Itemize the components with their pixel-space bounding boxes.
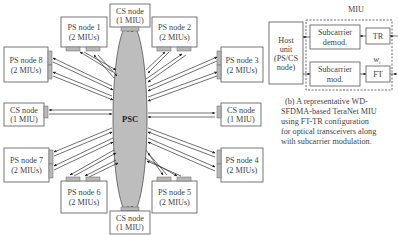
ps-node-2: PS node 2 (2 MIUs): [152, 17, 197, 51]
node-sublabel: (1 MIU): [116, 223, 144, 232]
node-sublabel: (2 MIUs): [11, 166, 42, 175]
cs-node-right: CS node (1 MIU): [217, 103, 261, 126]
cs-node-top: CS node (1 MIU): [110, 4, 150, 31]
caption-line: with subcarrier modulation.: [281, 137, 372, 146]
ps-node-7: PS node 7 (2 MIUs): [4, 148, 53, 182]
node-label: CS node: [227, 106, 255, 115]
host-label: unit: [280, 45, 293, 54]
host-label: node): [277, 63, 296, 72]
node-sublabel: (2 MIUs): [227, 166, 258, 175]
mod-label: mod.: [327, 75, 344, 84]
node-label: PS node 8: [9, 56, 42, 65]
tr-label: TR: [373, 32, 384, 41]
host-label: (PS/CS: [274, 54, 299, 63]
node-sublabel: (1 MIU): [116, 16, 144, 25]
cs-node-left: CS node (1 MIU): [4, 103, 48, 126]
teranet-diagram: PSC: [0, 0, 398, 235]
psc-hub: PSC: [113, 22, 147, 216]
node-label: CS node: [10, 106, 38, 115]
mod-label: Subcarrier: [318, 65, 352, 74]
host-label: Host: [278, 36, 294, 45]
ps-node-4: PS node 4 (2 MIUs): [217, 148, 263, 182]
figure-caption: (b) A representative WD- SFDMA-based Ter…: [281, 97, 377, 146]
miu-title: MIU: [348, 5, 364, 14]
node-sublabel: (2 MIUs): [159, 198, 190, 207]
demod-label: demod.: [323, 38, 347, 47]
psc-label: PSC: [122, 114, 138, 124]
wavelength-label: wi: [374, 55, 381, 65]
miu-detail: MIU Host unit (PS/CS node) Subcarrier de…: [269, 5, 398, 90]
node-sublabel: (2 MIUs): [11, 66, 42, 75]
node-sublabel: (2 MIUs): [159, 33, 190, 42]
cs-node-bottom: CS node (1 MIU): [110, 207, 150, 234]
node-label: PS node 1: [67, 23, 100, 32]
node-label: PS node 3: [225, 56, 258, 65]
node-sublabel: (1 MIU): [227, 115, 255, 124]
node-label: CS node: [116, 214, 144, 223]
ps-node-8: PS node 8 (2 MIUs): [4, 47, 52, 82]
ps-node-5: PS node 5 (2 MIUs): [152, 177, 197, 213]
node-sublabel: (2 MIUs): [69, 198, 100, 207]
node-label: PS node 7: [10, 156, 43, 165]
ps-node-6: PS node 6 (2 MIUs): [61, 177, 107, 213]
ps-node-1: PS node 1 (2 MIUs): [61, 17, 107, 51]
caption-line: using FT-TR configuration: [281, 117, 369, 126]
node-label: CS node: [116, 7, 144, 16]
node-label: PS node 2: [158, 23, 191, 32]
ps-node-3: PS node 3 (2 MIUs): [217, 47, 263, 82]
caption-line: (b) A representative WD-: [285, 97, 368, 106]
node-sublabel: (1 MIU): [10, 115, 38, 124]
node-sublabel: (2 MIUs): [227, 66, 258, 75]
ft-label: FT: [373, 70, 383, 79]
node-label: PS node 6: [67, 188, 100, 197]
node-label: PS node 5: [158, 188, 191, 197]
node-label: PS node 4: [225, 156, 258, 165]
demod-label: Subcarrier: [318, 28, 352, 37]
caption-line: SFDMA-based TeraNet MIU: [281, 107, 377, 116]
node-sublabel: (2 MIUs): [69, 33, 100, 42]
caption-line: for optical transceivers along: [281, 127, 376, 136]
